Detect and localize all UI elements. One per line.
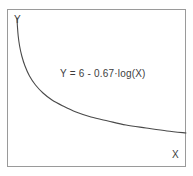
equation-annotation: Y = 6 - 0.67·log(X) xyxy=(60,68,146,79)
y-axis-label: Y xyxy=(14,15,21,25)
x-axis-label: X xyxy=(172,150,179,160)
plot-frame xyxy=(7,9,186,167)
chart-figure: Y X Y = 6 - 0.67·log(X) xyxy=(0,0,193,176)
